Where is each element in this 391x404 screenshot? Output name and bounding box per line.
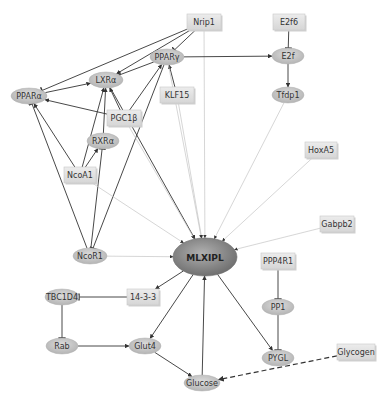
node-ncor1[interactable]: NcoR1 — [73, 248, 107, 264]
edge-ncoa1-to-rxra — [85, 149, 97, 167]
node-label: RXRα — [92, 137, 114, 146]
edge-ncor1-to-mlxipl — [107, 256, 173, 257]
node-lxra[interactable]: LXRα — [89, 72, 123, 88]
node-rab[interactable]: Rab — [46, 338, 78, 354]
node-label: PPP4R1 — [263, 257, 293, 266]
edge-glut4-to-glucose — [155, 352, 192, 376]
edge-pgc1b-to-lxra — [110, 88, 121, 110]
network-diagram: Nrip1E2f6PPARγE2fLXRαPPARαKLF15Tfdp1PGC1… — [0, 0, 391, 404]
edge-tfdp1-to-mlxipl — [214, 103, 284, 239]
edge-glucose-to-mlxipl — [202, 276, 204, 375]
node-label: E2f — [282, 52, 295, 61]
edge-mlxipl-to-glut4 — [150, 275, 193, 339]
node-nrip1[interactable]: Nrip1 — [187, 14, 223, 32]
node-label: PP1 — [271, 303, 286, 312]
node-tfdp1[interactable]: Tfdp1 — [272, 87, 304, 103]
edge-pgc1b-to-mlxipl — [129, 126, 195, 239]
node-pgc1b[interactable]: PGC1β — [107, 110, 143, 128]
node-ppara[interactable]: PPARα — [11, 88, 47, 104]
node-hoxa5[interactable]: HoxA5 — [305, 142, 339, 160]
node-ncoa1[interactable]: NcoA1 — [64, 167, 98, 185]
node-label: Rab — [54, 342, 69, 351]
node-label: 14-3-3 — [130, 293, 156, 302]
node-label: KLF15 — [165, 91, 189, 100]
node-glycogen[interactable]: Glycogen — [337, 344, 377, 362]
edge-ncoa1-to-mlxipl — [92, 183, 183, 243]
node-pparg[interactable]: PPARγ — [150, 49, 184, 65]
node-label: Tfdp1 — [276, 91, 300, 100]
edge-ncoa1-to-ppara — [34, 104, 75, 167]
edge-mlxipl-to-pygl — [218, 274, 273, 350]
node-e2f6[interactable]: E2f6 — [273, 14, 307, 32]
node-label: PPARγ — [155, 53, 180, 62]
edge-pparg-to-lxra — [119, 62, 153, 75]
node-mlxipl-hub[interactable]: MLXIPL — [173, 238, 237, 276]
node-label: E2f6 — [280, 18, 298, 27]
nodes-layer: Nrip1E2f6PPARγE2fLXRαPPARαKLF15Tfdp1PGC1… — [11, 14, 377, 391]
edge-ppara-to-lxra — [45, 83, 90, 92]
edge-pparg-to-ncor1 — [93, 65, 164, 248]
node-label: TBC1D4 — [45, 293, 78, 302]
node-glucose[interactable]: Glucose — [184, 375, 220, 391]
node-label: HoxA5 — [308, 146, 334, 155]
node-tbc1d4[interactable]: TBC1D4 — [45, 289, 79, 305]
edge-ncor1-to-rxra — [91, 149, 102, 248]
edge-e2f6-to-e2f — [288, 30, 289, 48]
node-pp1[interactable]: PP1 — [262, 299, 294, 315]
node-label: Glycogen — [337, 348, 375, 357]
node-label: NcoR1 — [77, 252, 103, 261]
node-gabpb2[interactable]: Gabpb2 — [320, 216, 356, 234]
node-ppp4r1[interactable]: PPP4R1 — [261, 253, 297, 271]
node-label: NcoA1 — [67, 171, 93, 180]
node-label: LXRα — [96, 76, 117, 85]
node-label: PGC1β — [111, 114, 138, 123]
node-e2f[interactable]: E2f — [272, 48, 304, 64]
hub-label: MLXIPL — [186, 253, 224, 263]
node-1433[interactable]: 14-3-3 — [127, 289, 161, 307]
node-label: Glut4 — [134, 342, 156, 351]
node-label: PPARα — [16, 92, 41, 101]
node-rxra[interactable]: RXRα — [87, 133, 119, 149]
edge-gabpb2-to-mlxipl — [234, 228, 320, 249]
edge-mlxipl-to-1433 — [155, 271, 183, 289]
edge-rxra-to-lxra — [103, 88, 105, 133]
node-label: Nrip1 — [193, 18, 215, 27]
node-pygl[interactable]: PYGL — [262, 350, 294, 366]
edges-layer — [32, 29, 337, 380]
edge-pparg-to-e2f — [184, 56, 272, 57]
node-label: Gabpb2 — [321, 220, 352, 229]
node-glut4[interactable]: Glut4 — [129, 338, 161, 354]
node-label: Glucose — [186, 379, 218, 388]
edge-nrip1-to-mlxipl — [204, 30, 205, 238]
node-label: PYGL — [268, 354, 289, 363]
node-klf15[interactable]: KLF15 — [160, 87, 196, 105]
edge-hoxa5-to-mlxipl — [222, 158, 312, 241]
edge-pgc1b-to-pparg — [130, 65, 162, 110]
